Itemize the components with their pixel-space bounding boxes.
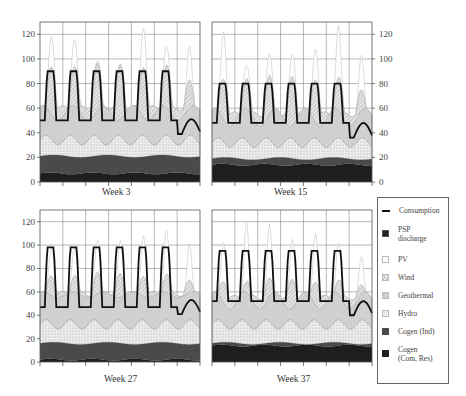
legend-item-psp: PSP discharge — [382, 225, 438, 243]
legend: Consumption PSP discharge PV Wind Geothe… — [377, 197, 449, 384]
y-tick-label: 40 — [26, 128, 36, 138]
panel-title-week-27: Week 27 — [104, 374, 137, 384]
legend-item-pv: PV — [382, 255, 408, 264]
y-tick-label: 0 — [379, 177, 384, 187]
panel-title-week-15: Week 15 — [274, 187, 307, 197]
panel-week-27: 020406080100120 — [22, 210, 201, 367]
y-tick-label: 100 — [22, 54, 36, 64]
y-tick-label: 100 — [22, 240, 36, 250]
legend-item-cogen-ind: Cogen (Ind) — [382, 327, 434, 336]
legend-item-consumption: Consumption — [382, 206, 439, 215]
y-tick-label: 0 — [31, 357, 36, 367]
y-tick-label: 120 — [22, 217, 36, 227]
cogen-ind-swatch-icon — [382, 328, 389, 335]
psp-swatch-icon — [382, 230, 389, 237]
cogen-ind-area — [40, 342, 200, 360]
legend-item-hydro: Hydro — [382, 309, 417, 318]
legend-item-cogen-com: Cogen (Com, Res) — [382, 345, 438, 363]
y-tick-label: 40 — [26, 310, 36, 320]
wind-swatch-icon — [382, 274, 389, 281]
legend-item-geothermal: Geothermal — [382, 291, 433, 300]
panel-week-3: 020406080100120 — [22, 22, 201, 187]
y-tick-label: 120 — [379, 29, 393, 39]
cogen-com-area — [212, 345, 372, 362]
y-tick-label: 100 — [379, 54, 393, 64]
y-tick-label: 120 — [22, 29, 36, 39]
y-tick-label: 80 — [26, 79, 36, 89]
y-tick-label: 60 — [379, 103, 389, 113]
y-tick-label: 60 — [26, 287, 36, 297]
panel-week-15: 020406080100120 — [212, 22, 393, 187]
cogen-com-swatch-icon — [382, 350, 389, 357]
y-tick-label: 20 — [26, 152, 36, 162]
consumption-line-icon — [382, 210, 390, 212]
pv-swatch-icon — [382, 256, 389, 263]
cogen-ind-area — [40, 155, 200, 174]
geothermal-swatch-icon — [382, 292, 389, 299]
y-tick-label: 20 — [26, 334, 36, 344]
y-tick-label: 20 — [379, 152, 389, 162]
panel-title-week-37: Week 37 — [277, 374, 310, 384]
wind-area — [40, 272, 200, 298]
y-tick-label: 80 — [26, 263, 36, 273]
panel-week-37 — [212, 210, 372, 366]
y-tick-label: 80 — [379, 79, 389, 89]
y-tick-label: 60 — [26, 103, 36, 113]
legend-item-wind: Wind — [382, 273, 414, 282]
y-tick-label: 0 — [31, 177, 36, 187]
hydro-swatch-icon — [382, 310, 389, 317]
cogen-com-area — [212, 164, 372, 182]
y-tick-label: 40 — [379, 128, 389, 138]
panel-title-week-3: Week 3 — [102, 187, 131, 197]
